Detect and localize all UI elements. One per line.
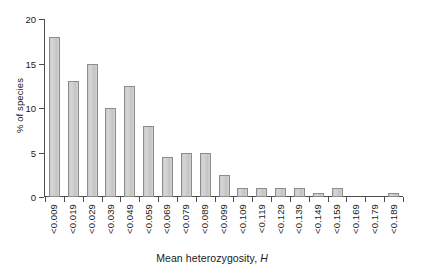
x-axis-tick-label: <0.129 <box>275 204 287 234</box>
x-axis-tick-label: <0.029 <box>86 204 98 234</box>
y-axis-tick-label: 5 <box>0 147 36 158</box>
plot-area <box>45 19 403 197</box>
x-axis-tick-label: <0.149 <box>312 204 324 234</box>
x-axis-tick <box>328 197 329 202</box>
x-axis-tick-label: <0.079 <box>180 204 192 234</box>
x-axis-tick <box>233 197 234 202</box>
y-axis-tick-label: 10 <box>0 103 36 114</box>
x-axis-tick <box>252 197 253 202</box>
x-axis-tick <box>346 197 347 202</box>
x-axis-title: Mean heterozygosity, H <box>0 252 424 264</box>
bar <box>237 188 248 197</box>
y-axis-tick <box>39 153 44 154</box>
x-axis-tick <box>64 197 65 202</box>
y-axis-tick-label: 0 <box>0 192 36 203</box>
y-axis-tick <box>39 19 44 20</box>
y-axis-tick-label: 15 <box>0 58 36 69</box>
bar <box>200 153 211 198</box>
y-axis-tick <box>39 108 44 109</box>
x-axis-tick <box>271 197 272 202</box>
bar <box>256 188 267 197</box>
x-axis-tick-label: <0.099 <box>218 204 230 234</box>
x-axis-tick <box>309 197 310 202</box>
x-axis-tick <box>158 197 159 202</box>
x-axis-tick <box>290 197 291 202</box>
y-axis-tick <box>39 64 44 65</box>
x-axis-tick-label: <0.009 <box>48 204 60 234</box>
x-axis-tick <box>102 197 103 202</box>
bar <box>313 193 324 197</box>
x-axis-tick-label: <0.069 <box>161 204 173 234</box>
bar <box>275 188 286 197</box>
bar <box>219 175 230 197</box>
y-axis-tick <box>39 197 44 198</box>
bar <box>294 188 305 197</box>
x-axis-tick <box>384 197 385 202</box>
x-axis-tick-label: <0.089 <box>199 204 211 234</box>
bar <box>49 37 60 197</box>
x-axis-tick-label: <0.039 <box>105 204 117 234</box>
x-axis-title-text: Mean heterozygosity, <box>156 252 257 264</box>
x-axis-tick <box>177 197 178 202</box>
bar <box>388 193 399 197</box>
x-axis-title-symbol: H <box>260 252 268 264</box>
x-axis-tick <box>120 197 121 202</box>
x-axis-tick <box>403 197 404 202</box>
x-axis-tick-label: <0.179 <box>369 204 381 234</box>
x-axis-tick-label: <0.189 <box>388 204 400 234</box>
bar <box>68 81 79 197</box>
x-axis-tick <box>45 197 46 202</box>
bar <box>124 86 135 197</box>
heterozygosity-histogram: % of species 05101520 <0.009<0.019<0.029… <box>0 0 424 275</box>
bar <box>105 108 116 197</box>
bar <box>143 126 154 197</box>
x-axis-tick <box>83 197 84 202</box>
bar <box>332 188 343 197</box>
bar <box>87 64 98 198</box>
bar <box>181 153 192 198</box>
x-axis-tick-label: <0.109 <box>237 204 249 234</box>
x-axis-tick-label: <0.139 <box>293 204 305 234</box>
bar <box>162 157 173 197</box>
x-axis-tick <box>139 197 140 202</box>
y-axis-tick-label: 20 <box>0 14 36 25</box>
x-axis-tick-label: <0.119 <box>256 204 268 233</box>
x-axis-tick-label: <0.049 <box>124 204 136 234</box>
x-axis-tick-label: <0.059 <box>143 204 155 234</box>
x-axis-tick <box>196 197 197 202</box>
x-axis-tick <box>215 197 216 202</box>
x-axis-tick-label: <0.169 <box>350 204 362 234</box>
x-axis-tick-label: <0.019 <box>67 204 79 234</box>
x-axis-tick-label: <0.159 <box>331 204 343 234</box>
x-axis-tick <box>365 197 366 202</box>
